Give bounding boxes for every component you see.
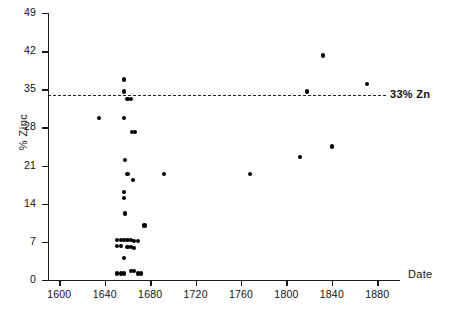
y-tick-label: 21 — [2, 159, 36, 171]
y-tick-label: 42 — [2, 44, 36, 56]
plot-area: % Zinc Date 33% Zn 07142128354249 160016… — [0, 0, 449, 311]
zinc-threshold-line — [48, 95, 386, 96]
data-point — [123, 211, 127, 215]
data-point — [122, 256, 126, 260]
data-point — [330, 144, 334, 148]
x-tick-mark — [105, 280, 106, 286]
y-tick-mark — [42, 204, 48, 205]
data-point — [129, 97, 133, 101]
x-tick-mark — [150, 280, 151, 286]
x-tick-label: 1640 — [83, 288, 127, 300]
y-tick-mark — [42, 280, 48, 281]
x-tick-label: 1680 — [128, 288, 172, 300]
y-tick-mark — [42, 127, 48, 128]
y-tick-mark — [42, 166, 48, 167]
data-point — [122, 190, 126, 194]
y-tick-label: 7 — [2, 235, 36, 247]
y-tick-mark — [42, 89, 48, 90]
y-tick-label: 35 — [2, 82, 36, 94]
y-tick-label: 49 — [2, 6, 36, 18]
y-axis-line — [48, 13, 49, 281]
x-tick-mark — [332, 280, 333, 286]
x-axis-title: Date — [408, 268, 432, 280]
x-tick-label: 1600 — [37, 288, 81, 300]
data-point — [305, 89, 309, 93]
data-point — [122, 196, 126, 200]
x-axis-line — [48, 280, 400, 281]
x-tick-mark — [241, 280, 242, 286]
y-tick-mark — [42, 242, 48, 243]
data-point — [142, 223, 146, 227]
y-tick-label: 14 — [2, 197, 36, 209]
data-point — [132, 246, 136, 250]
data-point — [321, 53, 325, 57]
data-point — [125, 172, 129, 176]
y-tick-mark — [42, 13, 48, 14]
x-tick-mark — [377, 280, 378, 286]
data-point — [136, 239, 140, 243]
x-tick-mark — [59, 280, 60, 286]
x-tick-label: 1720 — [174, 288, 218, 300]
data-point — [365, 82, 369, 86]
data-point — [248, 172, 252, 176]
x-tick-mark — [196, 280, 197, 286]
y-tick-label: 0 — [2, 273, 36, 285]
data-point — [131, 178, 135, 182]
x-tick-mark — [286, 280, 287, 286]
data-point — [122, 271, 126, 275]
data-point — [119, 244, 123, 248]
zinc-threshold-label: 33% Zn — [390, 88, 430, 100]
y-tick-label: 28 — [2, 120, 36, 132]
x-tick-label: 1800 — [264, 288, 308, 300]
data-point — [123, 158, 127, 162]
data-point — [133, 130, 137, 134]
data-point — [97, 116, 101, 120]
data-point — [298, 155, 302, 159]
zinc-scatter-chart: % Zinc Date 33% Zn 07142128354249 160016… — [0, 0, 449, 311]
y-tick-mark — [42, 51, 48, 52]
x-tick-label: 1880 — [355, 288, 399, 300]
data-point — [162, 172, 166, 176]
x-tick-label: 1760 — [219, 288, 263, 300]
data-point — [139, 271, 143, 275]
x-tick-label: 1840 — [310, 288, 354, 300]
data-point — [122, 89, 126, 93]
data-point — [122, 77, 126, 81]
data-point — [122, 116, 126, 120]
